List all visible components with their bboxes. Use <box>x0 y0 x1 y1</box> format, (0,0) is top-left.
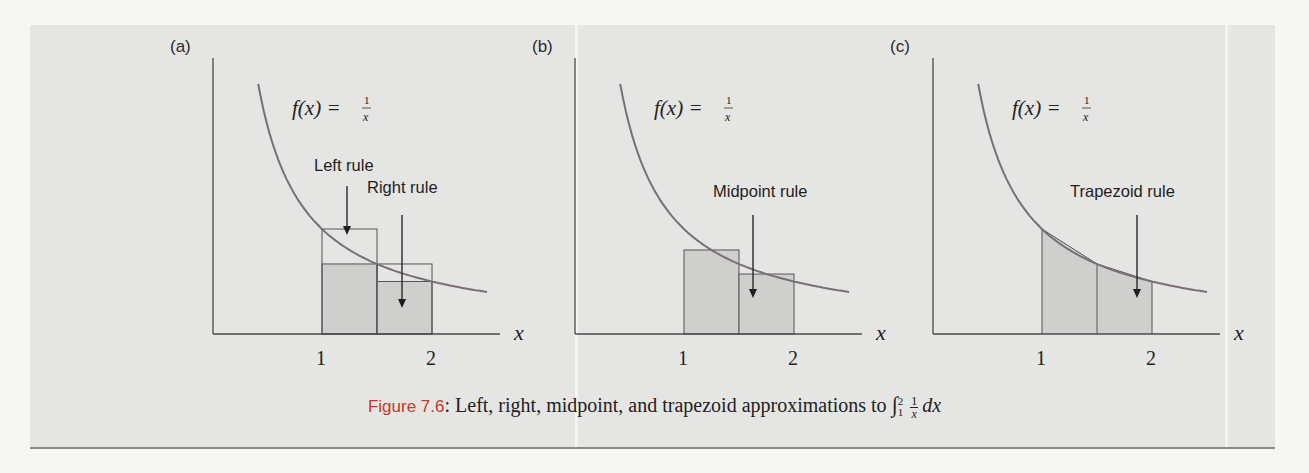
midpoint-rectangle <box>739 274 794 334</box>
midpoint-rectangle <box>684 250 739 334</box>
function-label-denominator: x <box>1082 110 1089 124</box>
integral-differential: dx <box>922 394 941 416</box>
x-tick-label: 2 <box>426 347 436 369</box>
trapezoid-rule-label: Trapezoid rule <box>1070 182 1175 200</box>
x-tick-label: 1 <box>316 347 326 369</box>
left-rule-arrow-icon <box>343 226 351 235</box>
integrand-numerator: 1 <box>910 395 918 408</box>
trapezoid-region <box>1042 229 1097 334</box>
function-label-numerator: 1 <box>364 94 370 106</box>
function-label: f(x) = <box>654 96 703 120</box>
figure-number: Figure 7.6 <box>368 397 445 416</box>
integral-limits: 21 <box>898 396 904 418</box>
x-axis-label: x <box>875 320 886 345</box>
right-rule-rectangle <box>377 282 432 335</box>
x-axis-label: x <box>513 320 524 345</box>
left-rule-label: Left rule <box>314 156 374 174</box>
x-tick-label: 2 <box>788 347 798 369</box>
caption-integral: ∫211xdx <box>892 394 941 416</box>
function-label-denominator: x <box>724 110 731 124</box>
function-label: f(x) = <box>292 96 341 120</box>
x-tick-label: 1 <box>1036 347 1046 369</box>
panel-label: (b) <box>532 37 553 56</box>
function-label-denominator: x <box>362 110 369 124</box>
integrand-denominator: x <box>911 408 916 420</box>
panel-label: (c) <box>890 37 910 56</box>
midpoint-rule-label: Midpoint rule <box>713 182 807 200</box>
panel-label: (a) <box>170 37 191 56</box>
function-label-numerator: 1 <box>726 94 732 106</box>
integral-lower-limit: 1 <box>898 407 904 418</box>
x-tick-label: 2 <box>1146 347 1156 369</box>
function-label: f(x) = <box>1012 96 1061 120</box>
right-rule-label: Right rule <box>367 178 438 196</box>
function-label-numerator: 1 <box>1084 94 1090 106</box>
caption-text: Left, right, midpoint, and trapezoid app… <box>450 394 892 416</box>
x-tick-label: 1 <box>678 347 688 369</box>
figure-caption: Figure 7.6: Left, right, midpoint, and t… <box>0 392 1309 420</box>
integrand-fraction: 1x <box>910 395 918 420</box>
x-axis-label: x <box>1233 320 1244 345</box>
right-rule-rectangle <box>322 264 377 334</box>
